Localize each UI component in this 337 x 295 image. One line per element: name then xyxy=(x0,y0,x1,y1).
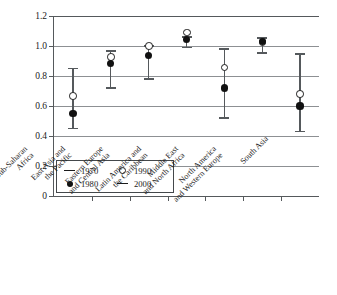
cap-2000 xyxy=(219,48,229,50)
gridline xyxy=(54,136,319,137)
y-axis-tick-label: 0.4 xyxy=(7,136,47,137)
gpi-scatter-chart: GPI 00.20.40.60.81.01.2 1970 1990 1980 2… xyxy=(0,0,337,295)
data-point-1980 xyxy=(107,60,114,67)
data-point-1980 xyxy=(221,84,228,91)
data-point-1980 xyxy=(145,52,152,59)
top-rule xyxy=(54,16,319,17)
data-point-1990 xyxy=(145,42,153,50)
gridline xyxy=(54,106,319,107)
x-axis-tick xyxy=(281,196,282,201)
cap-1970 xyxy=(257,52,267,54)
cap-1970 xyxy=(106,87,116,89)
gridline xyxy=(54,76,319,77)
y-axis-tick-label: 1.2 xyxy=(7,16,47,17)
y-axis-tick-label: 0.6 xyxy=(7,106,47,107)
y-axis-tick xyxy=(49,106,54,107)
y-axis-tick-label: 0.8 xyxy=(7,76,47,77)
y-axis-tick-label: 1.0 xyxy=(7,46,47,47)
data-point-1980 xyxy=(183,36,190,43)
y-axis-tick xyxy=(49,16,54,17)
cap-1970 xyxy=(295,131,305,133)
cap-1970 xyxy=(219,117,229,119)
y-axis-tick xyxy=(49,136,54,137)
y-axis-tick xyxy=(49,46,54,47)
y-axis-tick xyxy=(49,76,54,77)
data-point-1980 xyxy=(259,38,266,45)
range-bar xyxy=(148,46,149,79)
cap-2000 xyxy=(68,68,78,70)
data-point-1980 xyxy=(296,102,303,109)
data-point-1990 xyxy=(296,90,304,98)
data-point-1990 xyxy=(69,92,77,100)
cap-1970 xyxy=(182,47,192,49)
x-axis-tick xyxy=(243,196,244,201)
cap-1970 xyxy=(144,78,154,80)
data-point-1980 xyxy=(69,110,76,117)
cap-2000 xyxy=(106,50,116,52)
cap-1970 xyxy=(68,128,78,130)
cap-2000 xyxy=(295,53,305,55)
data-point-1990 xyxy=(221,64,229,72)
